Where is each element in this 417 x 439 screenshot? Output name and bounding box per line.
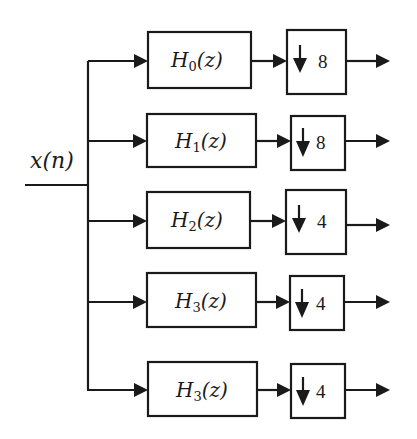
- filter-label-3: H3(z): [175, 291, 227, 314]
- downsample-factor-0: 8: [318, 52, 328, 71]
- filter-label-0: H0(z): [171, 50, 223, 73]
- arrowhead-icon: [376, 134, 390, 148]
- downsample-factor-3: 4: [316, 294, 326, 313]
- arrowhead-icon: [277, 134, 291, 148]
- filter-subscript: 2: [188, 219, 196, 234]
- downsample-factor-2: 4: [317, 212, 327, 231]
- downsample-factor-1: 8: [316, 133, 326, 152]
- filter-label-4: H3(z): [176, 380, 228, 403]
- arrowhead-icon: [376, 218, 390, 232]
- input-signal-label: x(n): [30, 150, 74, 172]
- filter-arg: (z): [197, 208, 223, 232]
- filter-arg: (z): [197, 48, 223, 72]
- arrowhead-icon: [376, 295, 390, 309]
- filter-label-2: H2(z): [171, 210, 223, 233]
- down-arrow-icon: [296, 128, 310, 157]
- down-arrow-icon: [292, 205, 306, 233]
- downsample-arrows: [292, 45, 310, 406]
- arrowhead-icon: [276, 295, 290, 309]
- filter-subscript: 1: [192, 140, 200, 155]
- filter-subscript: 0: [188, 59, 196, 74]
- arrowhead-icon: [376, 383, 390, 397]
- filter-arg: (z): [202, 378, 228, 402]
- filter-name: H: [176, 378, 193, 402]
- filter-name: H: [175, 289, 192, 313]
- filter-subscript: 3: [193, 389, 201, 404]
- filter-name: H: [171, 48, 188, 72]
- filter-label-1: H1(z): [175, 131, 227, 154]
- arrowhead-icon: [272, 214, 286, 228]
- filter-bank-diagram: x(n) H0(z) H1(z) H2(z) H3(z) H3(z) 8 8 4…: [0, 0, 417, 439]
- arrowhead-icon: [133, 134, 147, 148]
- arrowhead-icon: [273, 54, 287, 68]
- arrowhead-icon: [133, 214, 147, 228]
- filter-arg: (z): [201, 289, 227, 313]
- down-arrow-icon: [295, 289, 309, 318]
- filter-name: H: [175, 129, 192, 153]
- arrowhead-icon: [134, 54, 148, 68]
- downsample-factor-4: 4: [316, 382, 326, 401]
- filter-subscript: 3: [192, 300, 200, 315]
- arrowhead-icon: [277, 383, 291, 397]
- arrowhead-icon: [133, 295, 147, 309]
- arrowhead-icon: [376, 54, 390, 68]
- filter-arg: (z): [201, 129, 227, 153]
- down-arrow-icon: [293, 45, 307, 73]
- filter-name: H: [171, 208, 188, 232]
- down-arrow-icon: [296, 377, 310, 406]
- arrowhead-icon: [134, 383, 148, 397]
